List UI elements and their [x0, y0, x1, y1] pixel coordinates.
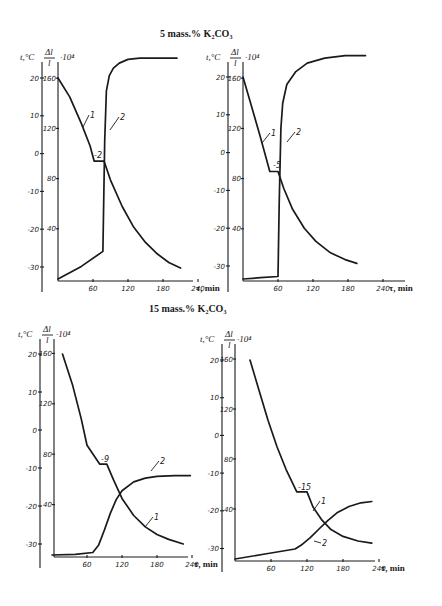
- dl-tick-label: 120: [228, 125, 242, 133]
- curve-2-label: 2: [120, 113, 125, 122]
- t-tick-label: -20: [26, 503, 38, 511]
- t-tick-label: -20: [208, 507, 220, 515]
- x-tick-label: 60: [274, 285, 283, 293]
- t-tick-label: -10: [28, 188, 40, 196]
- t-tick-label: 10: [30, 112, 39, 120]
- curve-2-leader: [151, 461, 159, 471]
- dl-tick-label: 80: [47, 175, 56, 183]
- t-tick-label: -20: [28, 226, 40, 234]
- curve-1-leader: [262, 133, 270, 143]
- dl-axis-scale: ·10⁴: [245, 52, 259, 62]
- dl-tick-label: 160: [228, 75, 242, 83]
- plateau-annotation: -9: [101, 455, 109, 464]
- dl-tick-label: 40: [232, 225, 241, 233]
- curve-1-label: 1: [154, 513, 159, 522]
- dl-tick-label: 40: [224, 506, 233, 514]
- dl-axis-scale: ·10⁴: [56, 329, 70, 339]
- x-tick-label: 60: [267, 565, 276, 573]
- curve-2: [52, 476, 190, 555]
- curve-1-leader: [145, 517, 153, 527]
- t-tick-label: 0: [33, 427, 38, 435]
- x-tick-label: 180: [156, 285, 170, 293]
- t-tick-label: -30: [28, 264, 40, 272]
- curve-2-label: 2: [296, 128, 301, 137]
- dl-tick-label: 80: [224, 456, 233, 464]
- curve-1-label: 1: [90, 111, 95, 120]
- x-tick-label: 60: [89, 285, 98, 293]
- t-tick-label: 0: [221, 149, 226, 157]
- x-tick-label: 120: [306, 285, 320, 293]
- t-tick-label: 10: [210, 394, 219, 402]
- panel-15pct-left: t,°CΔll·10⁴20100-10-20-30160120804060120…: [18, 324, 218, 569]
- x-axis-title: τ, min: [389, 283, 413, 293]
- t-tick-label: 10: [216, 111, 225, 119]
- plateau-annotation: -2: [94, 151, 102, 160]
- t-axis-title: t,°C: [206, 52, 221, 62]
- t-tick-label: -30: [208, 545, 220, 553]
- dl-tick-label: 40: [47, 225, 56, 233]
- dl-axis-title-num: Δl: [42, 324, 51, 334]
- x-tick-label: 60: [83, 561, 92, 569]
- curve-2: [243, 56, 366, 279]
- curve-2-leader: [110, 117, 119, 130]
- t-tick-label: 10: [28, 389, 37, 397]
- dl-axis-title-num: Δl: [44, 47, 53, 57]
- curve-1: [63, 354, 184, 544]
- curve-2-label: 2: [160, 457, 165, 466]
- t-tick-label: -10: [26, 465, 38, 473]
- x-tick-label: 180: [336, 565, 350, 573]
- dl-tick-label: 40: [43, 501, 52, 509]
- curve-1: [58, 78, 181, 268]
- section-title-5: 5 mass.% K₂CO₃: [160, 28, 232, 39]
- x-tick-label: 120: [121, 285, 135, 293]
- x-axis-title: τ, min: [194, 559, 218, 569]
- curve-1-leader: [313, 501, 320, 511]
- t-tick-label: -10: [208, 470, 220, 478]
- t-tick-label: 20: [30, 75, 39, 83]
- x-axis-title: τ, min: [196, 283, 220, 293]
- x-tick-label: 120: [115, 561, 129, 569]
- curve-1-label: 1: [271, 129, 276, 138]
- curve-2: [235, 502, 372, 560]
- t-tick-label: 20: [28, 351, 37, 359]
- dl-tick-label: 120: [39, 400, 53, 408]
- plateau-annotation: -15: [298, 483, 311, 492]
- dl-tick-label: 80: [43, 451, 52, 459]
- curve-1-label: 1: [321, 497, 326, 506]
- dl-axis-title-den: l: [46, 335, 49, 345]
- dl-axis-title-num: Δl: [224, 329, 233, 339]
- t-tick-label: 0: [35, 150, 40, 158]
- curve-1: [243, 77, 357, 263]
- dl-tick-label: 160: [43, 75, 57, 83]
- curve-1-leader: [83, 115, 89, 127]
- x-tick-label: 180: [150, 561, 164, 569]
- curve-2: [58, 58, 177, 279]
- dl-axis-title-den: l: [234, 58, 237, 68]
- t-tick-label: -30: [214, 263, 226, 271]
- panel-15pct-right: t,°CΔll·10⁴20100-10-20-30160120804060120…: [200, 329, 405, 573]
- dl-tick-label: 120: [43, 125, 57, 133]
- t-tick-label: 20: [216, 74, 225, 82]
- t-axis-title: t,°C: [20, 52, 35, 62]
- dl-tick-label: 160: [220, 356, 234, 364]
- dl-tick-label: 120: [220, 406, 234, 414]
- x-axis-title: τ, min: [381, 563, 405, 573]
- t-tick-label: 0: [215, 432, 220, 440]
- t-axis-title: t,°C: [18, 329, 33, 339]
- t-tick-label: 20: [210, 357, 219, 365]
- dl-axis-scale: ·10⁴: [237, 334, 251, 344]
- dl-axis-title-den: l: [228, 340, 231, 350]
- t-tick-label: -20: [214, 225, 226, 233]
- dl-tick-label: 160: [39, 350, 53, 358]
- t-axis-title: t,°C: [200, 334, 215, 344]
- figure: 5 mass.% K₂CO₃ 15 mass.% K₂CO₃ t,°CΔll·1…: [0, 0, 442, 606]
- dl-axis-title-den: l: [48, 58, 51, 68]
- t-tick-label: -30: [26, 541, 38, 549]
- t-tick-label: -10: [214, 187, 226, 195]
- panel-5pct-left: t,°CΔll·10⁴20100-10-20-30160120804060120…: [20, 47, 220, 293]
- panel-5pct-right: t,°CΔll·10⁴20100-10-20-30160120804060120…: [206, 47, 413, 293]
- dl-axis-scale: ·10⁴: [60, 52, 74, 62]
- curve-2-leader: [287, 132, 295, 142]
- curve-2-label: 2: [322, 539, 327, 548]
- x-tick-label: 180: [341, 285, 355, 293]
